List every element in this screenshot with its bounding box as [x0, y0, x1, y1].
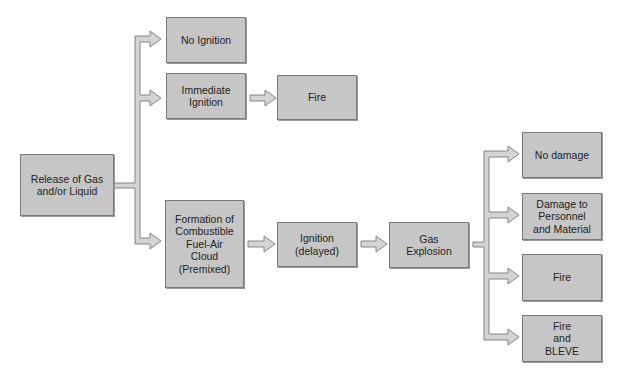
node-gas-explosion: Gas Explosion	[389, 222, 469, 268]
node-fire-immediate: Fire	[277, 75, 357, 120]
node-fire-explosion: Fire	[522, 254, 602, 301]
node-formation: Formation of Combustible Fuel-Air Cloud …	[165, 200, 244, 288]
node-immediate-ignition: Immediate Ignition	[166, 73, 246, 119]
node-release: Release of Gas and/or Liquid	[20, 154, 114, 216]
node-no-damage: No damage	[522, 132, 602, 178]
node-damage: Damage to Personnel and Material	[522, 193, 602, 240]
node-fire-bleve: Fire and BLEVE	[522, 315, 602, 362]
node-ignition-delayed: Ignition (delayed)	[277, 222, 357, 267]
node-no-ignition: No Ignition	[166, 17, 246, 63]
